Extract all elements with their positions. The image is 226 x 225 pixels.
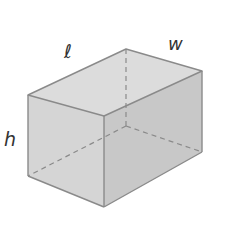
height-label: h: [4, 128, 16, 150]
length-label: ℓ: [63, 40, 72, 62]
width-label: w: [168, 33, 183, 54]
rectangular-prism-diagram: ℓ w h: [0, 0, 226, 225]
